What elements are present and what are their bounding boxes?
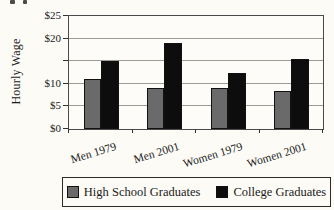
bar-men-1979-college [101,61,119,129]
x-category-label: Men 2001 [132,140,180,165]
plot-area [68,15,324,130]
y-tick-mark [63,60,68,61]
legend-label: College Graduates [233,185,326,200]
bar-men-2001-college [164,43,182,129]
legend-item: High School Graduates [67,185,201,200]
x-category-label: Men 1979 [69,140,117,165]
x-category-label: Women 1979 [182,140,244,169]
x-tick-mark [195,129,196,133]
x-tick-mark [322,129,323,133]
y-tick-label: $25 [31,9,61,21]
legend-label: High School Graduates [84,185,201,200]
y-tick-label: $0 [31,122,61,134]
y-tick-mark [63,15,68,16]
cropped-print-artifact [23,0,27,4]
y-tick-label: $5 [31,99,61,111]
y-tick-mark [63,105,68,106]
bar-men-1979-hs [84,79,101,129]
y-tick-mark [63,38,68,39]
gridline [69,38,323,39]
bar-women-2001-college [291,59,309,129]
x-tick-mark [68,129,69,133]
x-category-label: Women 2001 [246,140,308,169]
y-tick-label: $20 [31,32,61,44]
x-tick-mark [259,129,260,133]
x-tick-mark [132,129,133,133]
bar-men-2001-hs [147,88,164,129]
legend-item: College Graduates [216,185,326,200]
bar-women-1979-hs [211,88,228,129]
scanned-bar-chart-figure: Hourly Wage $25$20$10$5$0 Men 1979Men 20… [0,0,334,210]
y-tick-label: $10 [31,77,61,89]
high-school-swatch-icon [67,186,79,198]
legend-box: High School GraduatesCollege Graduates [62,177,331,207]
y-axis-title: Hourly Wage [9,22,24,122]
bar-women-1979-college [228,73,246,129]
cropped-print-artifact [10,0,15,4]
y-tick-mark [63,83,68,84]
college-swatch-icon [216,186,228,198]
bar-women-2001-hs [274,91,291,129]
